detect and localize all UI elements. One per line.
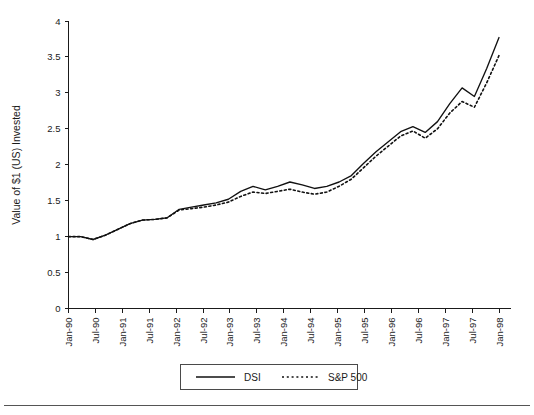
x-tick-label: Jan-90 xyxy=(63,318,74,347)
x-tick-label: Jul-95 xyxy=(359,318,370,344)
series-line-dsi xyxy=(69,38,500,240)
chart-figure: Value of $1 (US) Invested 00.511.522.533… xyxy=(0,0,534,415)
x-tick-label: Jul-92 xyxy=(198,318,209,344)
x-axis-ticks: Jan-90Jul-90Jan-91Jul-91Jan-92Jul-92Jan-… xyxy=(63,309,505,347)
x-tick-label: Jan-98 xyxy=(494,318,505,347)
legend: DSI S&P 500 xyxy=(181,365,368,390)
x-tick-label: Jan-95 xyxy=(332,318,343,347)
x-tick-label: Jan-92 xyxy=(171,318,182,347)
x-tick-label: Jul-97 xyxy=(467,318,478,344)
y-tick-label: 3.5 xyxy=(47,51,60,62)
x-tick-label: Jul-90 xyxy=(90,318,101,344)
x-tick-label: Jan-93 xyxy=(224,318,235,347)
y-axis-title: Value of $1 (US) Invested xyxy=(10,105,22,225)
x-tick-label: Jan-94 xyxy=(278,318,289,347)
x-tick-label: Jul-93 xyxy=(251,318,262,344)
y-tick-label: 2.5 xyxy=(47,123,60,134)
x-tick-label: Jan-91 xyxy=(117,318,128,347)
x-tick-label: Jan-96 xyxy=(386,318,397,347)
x-tick-label: Jul-91 xyxy=(144,318,155,344)
y-tick-label: 0 xyxy=(55,303,60,314)
y-tick-label: 1.5 xyxy=(47,195,60,206)
x-tick-label: Jul-96 xyxy=(413,318,424,344)
y-tick-label: 4 xyxy=(55,16,60,27)
x-tick-label: Jan-97 xyxy=(440,318,451,347)
y-tick-label: 1 xyxy=(55,231,60,242)
x-tick-label: Jul-94 xyxy=(305,318,316,344)
y-tick-label: 2 xyxy=(55,159,60,170)
legend-label-sp500: S&P 500 xyxy=(328,372,368,383)
y-tick-label: 0.5 xyxy=(47,267,60,278)
line-chart: Value of $1 (US) Invested 00.511.522.533… xyxy=(0,0,534,415)
series-line-sp500 xyxy=(69,56,500,240)
legend-label-dsi: DSI xyxy=(244,372,261,383)
y-axis-ticks: 00.511.522.533.54 xyxy=(47,16,68,315)
y-tick-label: 3 xyxy=(55,87,60,98)
